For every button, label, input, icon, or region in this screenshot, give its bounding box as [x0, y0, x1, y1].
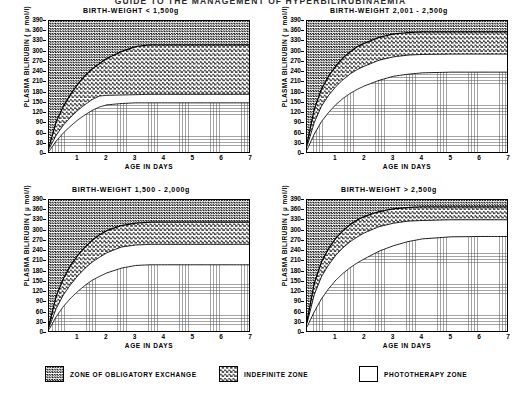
y-tick-label: 90 — [294, 298, 301, 305]
boundary-curve — [307, 32, 508, 144]
zone-boundary-curves — [307, 21, 508, 153]
panel-title: BIRTH-WEIGHT < 1,500g — [4, 7, 258, 14]
x-tick-label: 3 — [391, 154, 395, 161]
y-tick-label: 210 — [290, 257, 301, 264]
legend-swatch-icon-exchange — [45, 366, 64, 382]
y-tick-label: 210 — [32, 257, 43, 264]
y-tick-mark — [301, 133, 304, 134]
chart-panel-birthweight-2001-2500: BIRTH-WEIGHT 2,001 - 2,500g PLASMA BILIR… — [262, 7, 516, 183]
y-tick-mark — [43, 230, 46, 231]
y-tick-label: 390 — [290, 17, 301, 24]
y-tick-label: 300 — [32, 48, 43, 55]
x-tick-label: 1 — [75, 154, 79, 161]
x-tick-label: 2 — [104, 333, 108, 340]
y-tick-mark — [301, 71, 304, 72]
y-tick-mark — [43, 260, 46, 261]
y-tick-mark — [301, 30, 304, 31]
x-tick-label: 2 — [362, 154, 366, 161]
boundary-curve — [307, 207, 508, 321]
y-tick-label: 300 — [290, 227, 301, 234]
boundary-curve — [49, 244, 250, 327]
y-tick-mark — [43, 291, 46, 292]
y-tick-label: 360 — [290, 27, 301, 34]
y-tick-mark — [43, 61, 46, 62]
y-tick-label: 30 — [294, 140, 301, 147]
chart-legend: ZONE OF OBLIGATORY EXCHANGE INDEFINITE Z… — [0, 360, 521, 393]
y-tick-mark — [301, 322, 304, 323]
plot-area — [306, 20, 508, 153]
y-tick-mark — [301, 102, 304, 103]
chart-panel-birthweight-under-1500: BIRTH-WEIGHT < 1,500g PLASMA BILIRUBIN (… — [4, 7, 258, 183]
y-tick-label: 150 — [290, 99, 301, 106]
y-tick-mark — [43, 332, 46, 333]
y-tick-mark — [43, 112, 46, 113]
plot-area — [48, 20, 250, 153]
y-tick-label: 90 — [294, 119, 301, 126]
y-tick-label: 240 — [32, 247, 43, 254]
x-tick-label: 6 — [477, 333, 481, 340]
plot-box — [48, 20, 250, 153]
y-tick-mark — [43, 271, 46, 272]
y-tick-label: 270 — [290, 58, 301, 65]
y-tick-label: 60 — [36, 309, 43, 316]
y-tick-mark — [43, 71, 46, 72]
boundary-curve — [49, 103, 250, 151]
x-tick-label: 4 — [162, 154, 166, 161]
x-axis-title: AGE IN DAYS — [306, 163, 508, 170]
y-tick-label: 30 — [36, 319, 43, 326]
y-tick-mark — [43, 51, 46, 52]
y-tick-label: 180 — [290, 268, 301, 275]
y-tick-mark — [43, 143, 46, 144]
y-tick-mark — [301, 260, 304, 261]
y-tick-label: 180 — [32, 268, 43, 275]
y-tick-mark — [43, 81, 46, 82]
y-tick-mark — [43, 219, 46, 220]
y-tick-mark — [43, 30, 46, 31]
y-axis-labels: 0306090120150180210240270300330360390 — [4, 199, 46, 332]
chart-panel-grid: BIRTH-WEIGHT < 1,500g PLASMA BILIRUBIN (… — [0, 7, 521, 359]
y-tick-label: 330 — [290, 37, 301, 44]
x-tick-label: 1 — [75, 333, 79, 340]
y-axis-labels: 0306090120150180210240270300330360390 — [4, 20, 46, 153]
y-tick-label: 390 — [32, 17, 43, 24]
y-tick-mark — [43, 102, 46, 103]
y-tick-mark — [301, 219, 304, 220]
x-tick-label: 2 — [104, 154, 108, 161]
boundary-curve — [307, 220, 508, 324]
y-tick-mark — [301, 250, 304, 251]
y-tick-label: 90 — [36, 298, 43, 305]
y-tick-mark — [43, 40, 46, 41]
legend-item-indefinite-zone: INDEFINITE ZONE — [219, 366, 308, 382]
boundary-curve — [49, 45, 250, 147]
y-tick-mark — [301, 153, 304, 154]
x-tick-label: 6 — [219, 154, 223, 161]
panel-title: BIRTH-WEIGHT 2,001 - 2,500g — [262, 7, 516, 14]
plot-box — [48, 199, 250, 332]
y-tick-label: 300 — [32, 227, 43, 234]
legend-swatch-icon-indefinite — [219, 366, 238, 382]
y-tick-mark — [301, 230, 304, 231]
y-tick-mark — [43, 92, 46, 93]
y-tick-label: 60 — [294, 309, 301, 316]
plot-box — [306, 199, 508, 332]
y-tick-mark — [301, 240, 304, 241]
y-tick-label: 390 — [290, 196, 301, 203]
chart-panel-birthweight-1500-2000: BIRTH-WEIGHT 1,500 - 2,000g PLASMA BILIR… — [4, 186, 258, 362]
x-axis-title: AGE IN DAYS — [48, 342, 250, 349]
x-tick-label: 5 — [190, 154, 194, 161]
y-tick-label: 210 — [32, 78, 43, 85]
x-tick-label: 5 — [448, 154, 452, 161]
y-tick-label: 270 — [32, 58, 43, 65]
document-title-text: GUIDE TO THE MANAGEMENT OF HYPERBILIRUBI… — [0, 0, 521, 5]
y-tick-label: 360 — [32, 206, 43, 213]
y-tick-mark — [301, 271, 304, 272]
x-axis-title: AGE IN DAYS — [48, 163, 250, 170]
y-tick-label: 180 — [32, 89, 43, 96]
plot-box — [306, 20, 508, 153]
x-tick-label: 1 — [333, 333, 337, 340]
y-tick-label: 150 — [290, 278, 301, 285]
y-tick-label: 90 — [36, 119, 43, 126]
y-tick-label: 240 — [32, 68, 43, 75]
y-tick-label: 180 — [290, 89, 301, 96]
y-tick-mark — [43, 199, 46, 200]
